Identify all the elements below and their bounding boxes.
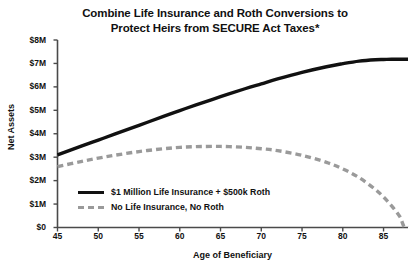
legend-label-no-insurance-no-roth: No Life Insurance, No Roth xyxy=(111,202,224,212)
chart-legend: $1 Million Life Insurance + $500k Roth N… xyxy=(78,184,270,214)
legend-label-insurance-roth: $1 Million Life Insurance + $500k Roth xyxy=(111,187,270,197)
legend-item-no-insurance-no-roth: No Life Insurance, No Roth xyxy=(78,199,270,214)
legend-swatch-solid-line-icon xyxy=(78,187,104,197)
series-line-1-million-life-insurance-500k-roth xyxy=(58,59,409,155)
chart-figure: Combine Life Insurance and Roth Conversi… xyxy=(0,0,416,268)
plot-area xyxy=(0,0,416,268)
legend-item-insurance-roth: $1 Million Life Insurance + $500k Roth xyxy=(78,184,270,199)
legend-swatch-dashed-line-icon xyxy=(78,202,104,212)
